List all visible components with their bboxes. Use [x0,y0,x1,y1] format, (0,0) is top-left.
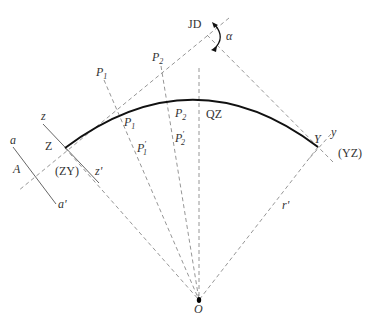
alpha-arrow-bottom-icon [211,46,217,52]
alpha-angle-arc [214,25,220,49]
label-z-prime: z' [94,164,103,178]
label-p1-top: P1 [95,65,107,81]
label-p2-curve: P2 [174,106,186,122]
label-p1-prime: P′1 [136,140,147,157]
label-y-axis: y [330,125,337,139]
radial-line-r-prime [199,147,318,300]
label-z-axis: z [40,109,46,123]
label-alpha: α [226,29,233,43]
label-o: O [194,302,203,316]
label-zy: (ZY) [55,164,79,178]
label-p1-curve: P1 [123,115,135,131]
label-r-prime: r' [282,198,290,212]
label-yz: (YZ) [338,146,362,160]
label-a: a [10,133,16,147]
label-p2-top: P2 [151,50,163,66]
radial-line-zy [65,148,199,300]
label-qz: QZ [206,107,222,121]
left-tangent-line [18,18,229,191]
circular-curve [65,100,318,148]
label-y-point: Y [314,132,322,146]
curve-layout-diagram: JD α P1 P2 P1 P2 P′1 P′2 QZ Z (ZY) z z' … [0,0,366,324]
label-a-prime: a' [58,197,67,211]
label-jd: JD [188,17,202,31]
label-p2-prime: P′2 [174,130,185,147]
label-A: A [12,162,21,176]
label-z-point: Z [45,139,52,153]
